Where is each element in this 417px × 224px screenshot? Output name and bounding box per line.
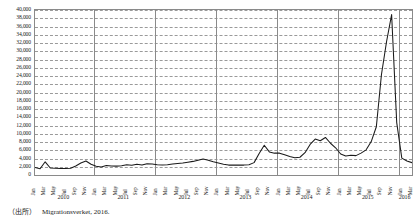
y-axis-tick-label: 40,000: [16, 6, 31, 12]
series-line-asylum-applications: [35, 10, 412, 175]
y-axis-tick-label: 6,000: [19, 146, 31, 152]
year-label: 2014: [276, 193, 337, 201]
y-axis-tick-label: 34,000: [16, 31, 31, 37]
y-axis-tick-label: 2,000: [19, 163, 31, 169]
y-axis-tick-label: 10,000: [16, 130, 31, 136]
source-note-paren: （出所）: [8, 207, 42, 217]
year-label: 2011: [93, 193, 154, 201]
year-label: 2013: [215, 193, 276, 201]
plot-inner: [35, 10, 412, 175]
year-label: 2010: [34, 193, 93, 201]
y-axis-tick-label: 8,000: [19, 138, 31, 144]
y-axis-tick-label: 24,000: [16, 72, 31, 78]
source-note-text: Migrationsverket, 2016.: [42, 207, 109, 217]
series-polyline: [35, 15, 412, 169]
year-label: 2012: [154, 193, 215, 201]
chart-container: 02,0004,0006,0008,00010,00012,00014,0001…: [0, 0, 417, 224]
y-axis-tick-label: 26,000: [16, 64, 31, 70]
y-axis-tick-label: 38,000: [16, 14, 31, 20]
y-axis-tick-label: 28,000: [16, 56, 31, 62]
y-axis-tick-label: 14,000: [16, 113, 31, 119]
plot-area: [34, 9, 413, 176]
y-axis-tick-label: 36,000: [16, 23, 31, 29]
y-axis-tick-label: 30,000: [16, 47, 31, 53]
y-axis-tick-label: 20,000: [16, 89, 31, 95]
y-axis-tick-label: 4,000: [19, 155, 31, 161]
y-axis-tick-label: 16,000: [16, 105, 31, 111]
y-axis-tick-label: 32,000: [16, 39, 31, 45]
year-label: 2015: [337, 193, 398, 201]
y-axis-tick-label: 12,000: [16, 122, 31, 128]
source-note: （出所）Migrationsverket, 2016.: [8, 207, 109, 217]
x-axis-year-labels: 2010201120122013201420152016: [34, 193, 413, 203]
y-axis-tick-label: 22,000: [16, 80, 31, 86]
y-axis-labels: 02,0004,0006,0008,00010,00012,00014,0001…: [0, 0, 34, 176]
year-label: 2016: [398, 193, 411, 201]
y-axis-tick-label: 0: [28, 171, 31, 177]
y-axis-tick-label: 18,000: [16, 97, 31, 103]
